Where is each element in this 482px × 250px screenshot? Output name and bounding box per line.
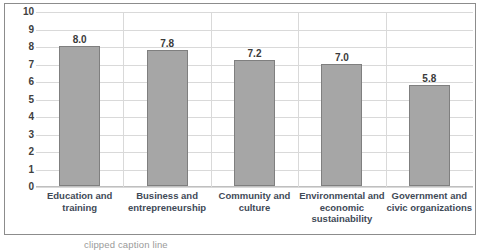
- category-label-line: economic: [320, 202, 364, 213]
- category-separator: [211, 12, 212, 187]
- category-label-line: Education and: [47, 190, 112, 201]
- y-axis-tick-label: 8: [28, 42, 34, 52]
- y-axis-tick-label: 2: [28, 147, 34, 157]
- category-label-line: culture: [239, 202, 271, 213]
- x-axis-category-label: Business andentrepreneurship: [123, 190, 210, 213]
- category-separator: [298, 12, 299, 187]
- category-separator: [386, 12, 387, 187]
- category-label-line: sustainability: [312, 213, 373, 224]
- x-axis-category-label: Education andtraining: [36, 190, 123, 213]
- category-label-line: entrepreneurship: [128, 202, 206, 213]
- x-axis-category-label: Environmental andeconomicsustainability: [298, 190, 385, 225]
- x-axis-category-label: Government andcivic organizations: [386, 190, 473, 213]
- bar-value-label: 8.0: [50, 34, 110, 45]
- x-axis-category-labels: Education andtrainingBusiness andentrepr…: [36, 190, 473, 235]
- chart-container: 109876543210 8.07.87.27.05.8 Education a…: [4, 3, 476, 235]
- x-axis-category-label: Community andculture: [211, 190, 298, 213]
- bar: [409, 85, 450, 187]
- gridline: [36, 30, 473, 31]
- category-label-line: Business and: [136, 190, 198, 201]
- y-axis-tick-label: 10: [23, 7, 34, 17]
- y-axis-tick-label: 7: [28, 60, 34, 70]
- bar-value-label: 7.8: [137, 38, 197, 49]
- y-axis-tick-label: 5: [28, 95, 34, 105]
- category-label-line: civic organizations: [387, 202, 473, 213]
- bar-value-label: 7.2: [225, 48, 285, 59]
- category-label-line: Environmental and: [299, 190, 385, 201]
- gridline: [36, 12, 473, 13]
- y-axis-tick-label: 9: [28, 25, 34, 35]
- gridline: [36, 187, 473, 188]
- y-axis: 109876543210: [5, 4, 36, 187]
- bar: [59, 46, 100, 186]
- y-axis-tick-label: 3: [28, 130, 34, 140]
- plot-area: 8.07.87.27.05.8: [36, 12, 473, 187]
- figure-caption: clipped caption line: [84, 240, 168, 250]
- bar-value-label: 5.8: [399, 73, 459, 84]
- bar-value-label: 7.0: [312, 52, 372, 63]
- figure-caption-strip: clipped caption line: [0, 240, 482, 250]
- bar: [321, 64, 362, 187]
- category-separator: [123, 12, 124, 187]
- category-label-line: Government and: [392, 190, 468, 201]
- bar: [147, 50, 188, 187]
- y-axis-tick-label: 4: [28, 112, 34, 122]
- y-axis-tick-label: 6: [28, 77, 34, 87]
- category-label-line: training: [62, 202, 97, 213]
- bar: [234, 60, 275, 186]
- y-axis-tick-label: 0: [28, 182, 34, 192]
- category-label-line: Community and: [219, 190, 291, 201]
- y-axis-tick-label: 1: [28, 165, 34, 175]
